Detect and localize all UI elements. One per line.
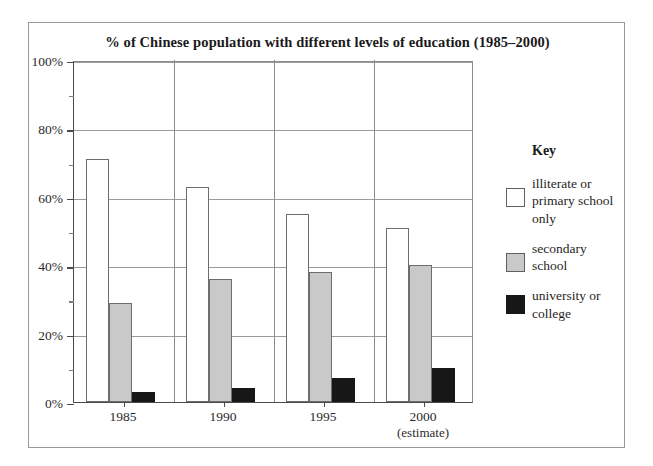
bar: [409, 265, 432, 402]
legend-item-label: illiterate or primary school only: [532, 175, 621, 227]
y-axis-minor-tick: [69, 165, 74, 166]
bar: [186, 187, 209, 402]
x-axis-tick: [424, 402, 425, 407]
bar: [209, 279, 232, 402]
y-axis-label: 80%: [38, 122, 63, 138]
y-axis-minor-tick: [69, 233, 74, 234]
bar: [309, 272, 332, 402]
legend-swatch-gray: [506, 253, 525, 272]
figure-frame: % of Chinese population with different l…: [28, 22, 625, 448]
legend-item-label: university or college: [532, 287, 621, 322]
y-axis-minor-tick: [69, 301, 74, 302]
y-axis-tick: [67, 336, 74, 337]
chart-title: % of Chinese population with different l…: [29, 34, 626, 51]
x-axis-label-text: 1985: [110, 409, 137, 424]
gridline: [74, 130, 472, 131]
legend-swatch-black: [506, 295, 525, 314]
bar: [286, 214, 309, 402]
gridline: [74, 62, 472, 63]
y-axis-minor-tick: [69, 370, 74, 371]
x-axis-sublabel: (estimate): [397, 425, 449, 440]
legend-swatch-white: [506, 188, 525, 207]
bar: [432, 368, 455, 402]
x-axis-label-text: 1995: [310, 409, 337, 424]
x-axis-tick: [224, 402, 225, 407]
y-axis-tick: [67, 199, 74, 200]
y-axis-label: 40%: [38, 259, 63, 275]
x-axis-label: 1985: [110, 409, 137, 425]
legend-item: university or college: [506, 287, 621, 322]
y-axis-label: 0%: [45, 396, 63, 412]
legend-item-label: secondary school: [532, 240, 621, 275]
x-axis-tick: [124, 402, 125, 407]
y-axis-tick: [67, 267, 74, 268]
x-axis-label-text: 1990: [210, 409, 237, 424]
legend-item: secondary school: [506, 240, 621, 275]
group-separator: [374, 60, 375, 402]
chart-legend: Key illiterate or primary school onlysec…: [506, 143, 621, 335]
y-axis-tick: [67, 62, 74, 63]
bar: [132, 392, 155, 402]
y-axis-label: 60%: [38, 191, 63, 207]
y-axis-tick: [67, 404, 74, 405]
bar: [386, 228, 409, 402]
y-axis-label: 20%: [38, 328, 63, 344]
y-axis-minor-tick: [69, 96, 74, 97]
gridline: [74, 199, 472, 200]
y-axis-tick: [67, 130, 74, 131]
group-separator: [274, 60, 275, 402]
legend-item: illiterate or primary school only: [506, 175, 621, 227]
plot-area: 0%20%40%60%80%100%: [73, 61, 473, 403]
x-axis-tick: [324, 402, 325, 407]
bar: [109, 303, 132, 402]
x-axis-label: 1995: [310, 409, 337, 425]
y-axis-label: 100%: [32, 54, 64, 70]
bar: [332, 378, 355, 402]
x-axis-label-text: 2000: [409, 409, 436, 424]
legend-items: illiterate or primary school onlyseconda…: [506, 175, 621, 322]
x-axis-label: 1990: [210, 409, 237, 425]
bar: [86, 159, 109, 402]
bar: [232, 388, 255, 402]
group-separator: [174, 60, 175, 402]
legend-title: Key: [532, 143, 621, 159]
x-axis-label: 2000(estimate): [397, 409, 449, 440]
